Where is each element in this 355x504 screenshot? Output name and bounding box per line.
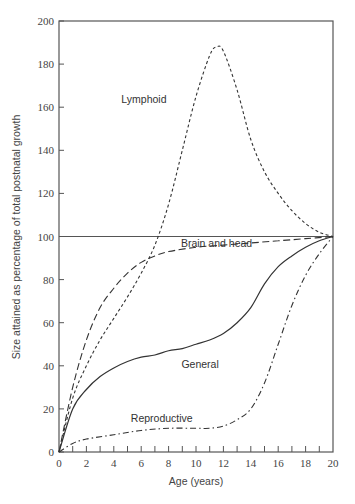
x-tick-label: 16 [273,457,285,469]
annotations: LymphoidBrain and headGeneralReproductiv… [121,93,252,424]
y-tick-label: 60 [43,317,55,329]
y-axis-title: Size attained as percentage of total pos… [10,115,22,360]
x-tick-label: 0 [56,457,62,469]
series-general [59,237,333,453]
label-reproductive: Reproductive [131,412,193,424]
y-tick-label: 160 [38,101,55,113]
label-general: General [181,358,218,370]
x-tick-label: 8 [166,457,172,469]
x-axis-title: Age (years) [169,475,223,487]
y-tick-label: 100 [38,231,55,243]
x-tick-label: 20 [328,457,340,469]
x-tick-label: 6 [138,457,144,469]
x-tick-label: 2 [84,457,90,469]
y-tick-label: 20 [43,403,55,415]
x-tick-label: 10 [191,457,203,469]
label-lymphoid: Lymphoid [121,93,166,105]
y-tick-label: 0 [49,446,55,458]
label-brain-and-head: Brain and head [181,237,252,249]
y-tick-label: 180 [38,58,55,70]
y-tick-label: 140 [38,144,55,156]
y-tick-label: 40 [43,360,55,372]
y-tick-label: 120 [38,187,55,199]
y-tick-label: 80 [43,274,55,286]
growth-curves-chart: 0204060801001201401601802000246810121416… [0,0,355,504]
x-tick-label: 4 [111,457,117,469]
x-tick-label: 14 [245,457,257,469]
x-tick-label: 12 [218,457,229,469]
y-tick-label: 200 [38,15,55,27]
x-tick-label: 18 [300,457,312,469]
